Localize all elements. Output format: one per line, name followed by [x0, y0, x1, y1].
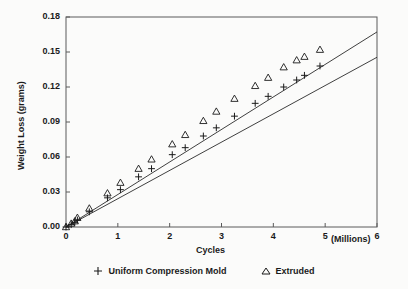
y-tick-label: 0.06: [24, 151, 60, 161]
x-tick-label: 4: [263, 231, 283, 241]
x-tick-label: 0: [56, 231, 76, 241]
x-tick-label: 2: [160, 231, 180, 241]
y-tick-label: 0.18: [24, 11, 60, 21]
chart-figure: 0.000.030.060.090.120.150.18 0123456 Wei…: [0, 0, 408, 289]
series-markers-extruded: [62, 46, 323, 230]
y-tick-label: 0.15: [24, 46, 60, 56]
plus-marker-icon: [93, 266, 103, 276]
x-axis-unit-label: (Millions): [331, 234, 371, 244]
x-tick-label: 1: [108, 231, 128, 241]
axis-ticks: [66, 17, 377, 227]
legend-label-extruded: Extruded: [276, 266, 315, 276]
legend-item-uniform-compression-mold: Uniform Compression Mold: [93, 266, 226, 276]
x-axis-title: Cycles: [196, 245, 225, 255]
y-tick-label: 0.12: [24, 81, 60, 91]
y-tick-label: 0.00: [24, 221, 60, 231]
triangle-marker-icon: [261, 266, 271, 276]
chart-legend: Uniform Compression Mold Extruded: [0, 266, 408, 276]
x-tick-label: 3: [212, 231, 232, 241]
y-axis-title: Weight Loss (grams): [16, 81, 26, 170]
series-markers-uniform-compression-mold: [63, 63, 324, 231]
trend-lines: [66, 32, 377, 227]
legend-item-extruded: Extruded: [261, 266, 315, 276]
plot-frame: [66, 17, 377, 227]
y-tick-label: 0.09: [24, 116, 60, 126]
y-tick-label: 0.03: [24, 186, 60, 196]
legend-label-uniform-compression-mold: Uniform Compression Mold: [108, 266, 226, 276]
